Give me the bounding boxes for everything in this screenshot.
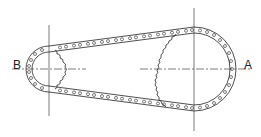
chain-drive-diagram: B A [0, 0, 261, 137]
label-b: B [13, 59, 21, 71]
center-lines [12, 8, 252, 131]
sprocket-b-teeth [55, 50, 67, 89]
label-a: A [244, 59, 252, 71]
chain-drive-drawing [0, 0, 261, 137]
sprocket-a-teeth [155, 34, 176, 107]
